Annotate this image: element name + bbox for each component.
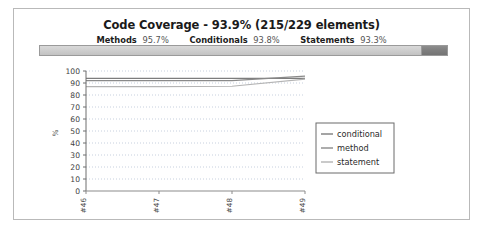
coverage-uncovered-segment xyxy=(422,46,447,55)
stat-statements-label: Statements xyxy=(300,35,354,45)
stat-conditionals-label: Conditionals xyxy=(189,35,247,45)
y-tick-label: 60 xyxy=(70,115,80,124)
y-tick-label: 50 xyxy=(70,127,80,136)
y-tick-label: 80 xyxy=(70,91,80,100)
stat-methods-label: Methods xyxy=(96,35,136,45)
legend-label-conditional: conditional xyxy=(337,129,382,139)
y-tick-label: 10 xyxy=(70,175,80,184)
chart-series-lines xyxy=(86,76,305,86)
chart-legend: conditionalmethodstatement xyxy=(316,123,394,173)
coverage-trend-chart: 0102030405060708090100 #46#47#48#49 % co… xyxy=(28,61,456,218)
x-tick-label: #48 xyxy=(225,198,234,214)
stat-statements-value: 93.3% xyxy=(360,35,386,45)
y-tick-label: 90 xyxy=(70,79,80,88)
stat-methods-value: 95.7% xyxy=(142,35,168,45)
coverage-stats: Methods 95.7% Conditionals 93.8% Stateme… xyxy=(14,35,469,45)
chart-x-ticks: #46#47#48#49 xyxy=(79,191,307,213)
stat-conditionals-value: 93.8% xyxy=(253,35,279,45)
coverage-covered-segment xyxy=(40,46,422,55)
legend-label-method: method xyxy=(337,143,369,153)
chart-y-axis-label: % xyxy=(51,129,60,136)
chart-y-ticks: 0102030405060708090100 xyxy=(66,67,87,196)
stat-statements: Statements 93.3% xyxy=(300,35,386,45)
x-tick-label: #47 xyxy=(152,198,161,213)
y-tick-label: 30 xyxy=(70,151,80,160)
coverage-progress-bar xyxy=(39,45,448,56)
y-tick-label: 20 xyxy=(70,163,80,172)
y-tick-label: 40 xyxy=(70,139,80,148)
y-tick-label: 100 xyxy=(66,67,81,76)
x-tick-label: #46 xyxy=(79,198,88,214)
code-coverage-report: Code Coverage - 93.9% (215/229 elements)… xyxy=(0,0,496,234)
x-tick-label: #49 xyxy=(298,198,307,214)
stat-conditionals: Conditionals 93.8% xyxy=(189,35,279,45)
report-panel: Code Coverage - 93.9% (215/229 elements)… xyxy=(13,8,470,220)
y-tick-label: 70 xyxy=(70,103,80,112)
page-title: Code Coverage - 93.9% (215/229 elements) xyxy=(14,18,469,32)
chart-svg: 0102030405060708090100 #46#47#48#49 % co… xyxy=(28,61,456,218)
legend-label-statement: statement xyxy=(337,157,380,167)
stat-methods: Methods 95.7% xyxy=(96,35,168,45)
y-tick-label: 0 xyxy=(75,187,80,196)
